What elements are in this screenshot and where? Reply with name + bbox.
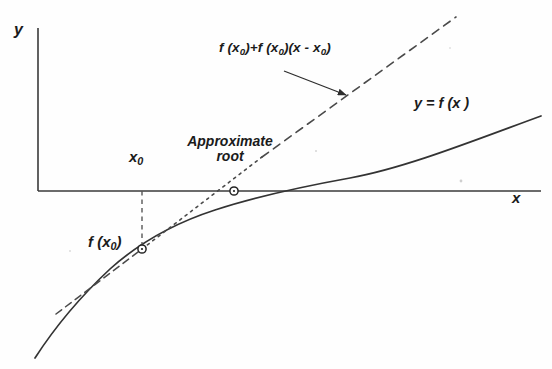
- scan-speckle: [69, 250, 71, 252]
- approximate-root-center: [233, 190, 235, 192]
- formula-part-d: ): [326, 40, 331, 55]
- tangent-line-formula-label: f (x0)+f (x0)(x - x0): [219, 41, 331, 57]
- function-curve-label: y = f (x ): [414, 96, 469, 111]
- x0-tick-label: x0: [129, 149, 143, 167]
- x0-subscript: 0: [137, 155, 143, 167]
- tangent-line-dotted-middle: [142, 157, 262, 249]
- y-axis-label: y: [14, 22, 23, 39]
- scan-speckle: [460, 180, 463, 183]
- formula-part-b: )+f (x: [245, 40, 278, 55]
- formula-part-a: f (x: [219, 40, 240, 55]
- tangent-line-lower-dash: [56, 249, 142, 314]
- fx0-prefix: f (x: [88, 233, 111, 250]
- fx0-value-label: f (x0): [88, 234, 122, 252]
- fx0-suffix: ): [117, 233, 122, 250]
- x-axis-label: x: [512, 190, 520, 206]
- tangent-line-upper-dash: [262, 17, 456, 157]
- newton-method-diagram: y x x0 f (x0) f (x0)+f (x0)(x - x0) Appr…: [0, 0, 552, 369]
- tangency-point-center: [141, 248, 143, 250]
- formula-callout-arrow: [284, 71, 346, 95]
- formula-part-c: )(x - x: [284, 40, 321, 55]
- scan-speckle: [315, 150, 317, 152]
- scan-speckle: [449, 47, 451, 49]
- approximate-root-label: Approximate root: [178, 134, 282, 163]
